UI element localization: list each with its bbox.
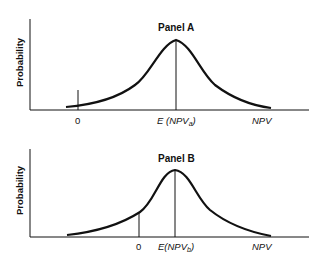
panel-b: Probability Panel B 0 E(NPVb) NPV: [14, 149, 309, 253]
mean-label: E (NPVa): [157, 115, 196, 127]
panel-a: Probability Panel A 0 E (NPVa) NPV: [14, 19, 309, 127]
zero-label: 0: [75, 115, 80, 126]
distribution-curve: [66, 40, 271, 108]
y-axis-label: Probability: [14, 165, 25, 215]
panel-title: Panel B: [158, 153, 195, 164]
figure: Probability Panel A 0 E (NPVa) NPV Proba…: [0, 0, 322, 263]
mean-label: E(NPVb): [158, 241, 194, 253]
zero-label: 0: [136, 241, 141, 252]
y-axis-label: Probability: [14, 37, 25, 87]
x-axis-label: NPV: [252, 115, 273, 126]
x-axis-label: NPV: [252, 241, 273, 252]
panel-title: Panel A: [158, 22, 194, 33]
distribution-curve: [67, 170, 271, 236]
